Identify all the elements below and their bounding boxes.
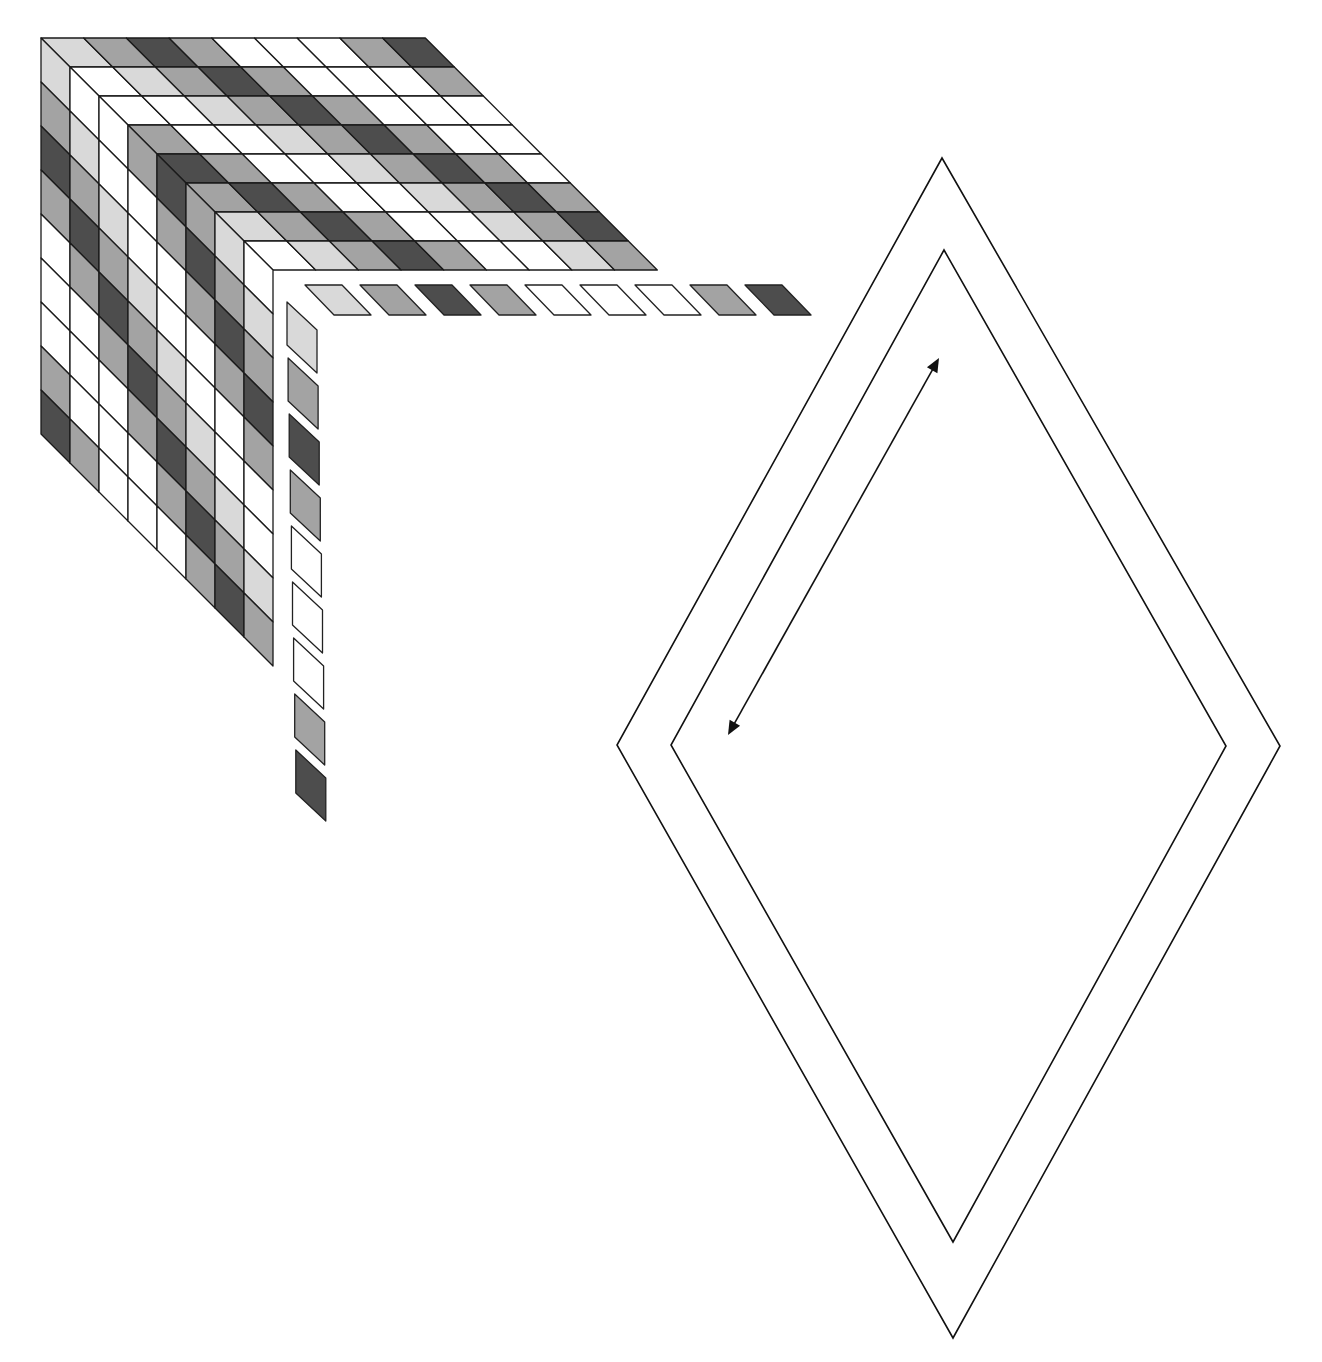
double-rhombus — [617, 158, 1280, 1338]
rhombus-outer-outline — [617, 158, 1280, 1338]
diagram-canvas — [0, 0, 1322, 1362]
arrow-head-up-icon — [927, 358, 939, 373]
arrow-shaft — [733, 368, 933, 725]
strip-tile — [635, 285, 701, 315]
strip-tile — [470, 285, 536, 315]
strip-tile — [580, 285, 646, 315]
detached-strip-vertical — [287, 302, 326, 821]
double-arrow-icon — [728, 358, 939, 735]
strip-tile — [690, 285, 756, 315]
strip-tile — [360, 285, 426, 315]
strip-tile — [305, 285, 371, 315]
rhombus-inner-outline — [671, 250, 1226, 1242]
detached-strip-horizontal — [305, 285, 811, 315]
strip-tile — [745, 285, 811, 315]
strip-tile — [415, 285, 481, 315]
strip-tile — [525, 285, 591, 315]
arrow-head-down-icon — [728, 720, 740, 735]
